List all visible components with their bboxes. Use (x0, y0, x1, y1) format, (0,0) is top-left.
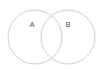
set-b-circle (41, 10, 95, 64)
set-b-label: B (66, 21, 71, 28)
venn-diagram-figure: A B (0, 0, 101, 70)
venn-diagram-canvas: A B (0, 0, 101, 70)
set-a-label: A (30, 21, 35, 28)
